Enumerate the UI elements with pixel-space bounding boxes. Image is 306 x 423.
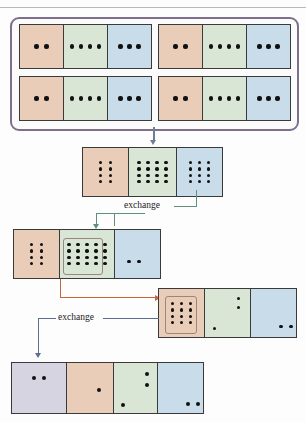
- dot-grid: [159, 289, 204, 337]
- connector-exchange1-down-stub: [114, 213, 115, 226]
- dot-grid: [177, 148, 222, 196]
- label-exchange-1: exchange: [124, 200, 160, 210]
- dot-grid: [184, 402, 202, 406]
- dot-grid: [247, 25, 290, 68]
- dot-grid: [203, 25, 246, 68]
- cell-blue-2: [114, 229, 161, 279]
- dot-grid: [14, 230, 59, 278]
- cell-pink-12: [158, 288, 205, 338]
- connector-exchange1-left: [115, 213, 145, 214]
- arrow-exchange2: [35, 353, 41, 358]
- cell-pink-2: [19, 76, 64, 121]
- dot-grid: [203, 77, 246, 120]
- connector-exchange2-left: [103, 318, 159, 319]
- dot-grid: [108, 25, 151, 68]
- dot-grid: [159, 77, 202, 120]
- cell-blue-2: [250, 288, 297, 338]
- dot-grid: [64, 77, 107, 120]
- connector-top-to-combined: [153, 127, 155, 141]
- cell-blue-12: [176, 147, 223, 197]
- dot-grid: [277, 325, 295, 328]
- dot-grid: [108, 77, 151, 120]
- dot: [97, 388, 101, 392]
- dot-grid: [20, 25, 63, 68]
- row-top-2-set-c: [19, 76, 152, 121]
- connector-exchange2-left2: [38, 318, 56, 319]
- diagram-canvas: exchange: [0, 0, 306, 423]
- cell-green-4: [63, 24, 108, 69]
- connector-carry-down: [60, 279, 61, 298]
- dot: [213, 327, 216, 330]
- row-top-2-set-d: [158, 76, 291, 121]
- dot-grid: [30, 376, 48, 380]
- cell-green-4: [202, 24, 247, 69]
- row-top-1-set-b: [158, 24, 291, 69]
- dot: [121, 403, 125, 407]
- dot-grid: [159, 25, 202, 68]
- cell-pink-2: [19, 24, 64, 69]
- connector-exchange1-right: [174, 206, 197, 207]
- dot: [145, 372, 149, 376]
- cell-green-3: [113, 362, 158, 414]
- cell-green-4: [202, 76, 247, 121]
- cell-pink-2: [158, 24, 203, 69]
- cell-pink-8: [13, 229, 60, 279]
- row-after-exchange-1: [13, 229, 161, 279]
- row-combined: [82, 147, 223, 197]
- dot-grid: [247, 77, 290, 120]
- connector-exchange2-down: [38, 318, 39, 355]
- dot-grid: [129, 148, 176, 196]
- label-exchange-2: exchange: [58, 312, 94, 322]
- dot: [145, 383, 149, 387]
- top-divider-rule: [0, 7, 306, 8]
- dot: [237, 297, 240, 300]
- cell-pink-1: [66, 362, 114, 414]
- cell-blue-3: [107, 24, 152, 69]
- cell-green-4: [63, 76, 108, 121]
- cell-pink-8: [82, 147, 129, 197]
- cell-blue-2: [157, 362, 204, 414]
- cell-green-16: [128, 147, 177, 197]
- connector-carry-right: [60, 297, 158, 298]
- cell-blue-3: [107, 76, 152, 121]
- cell-blue-3: [246, 76, 291, 121]
- cell-lavender-2: [11, 362, 67, 414]
- dot-grid: [64, 25, 107, 68]
- cell-green-3: [204, 288, 251, 338]
- arrow-top-to-combined: [150, 140, 156, 145]
- row-top-1-set-a: [19, 24, 152, 69]
- row-final: [11, 362, 204, 414]
- connector-exchange1-up: [196, 190, 197, 207]
- dot-grid: [20, 77, 63, 120]
- dot-grid: [83, 148, 128, 196]
- dot-grid: [125, 260, 143, 263]
- dot-grid: [60, 230, 114, 278]
- row-after-exchange-2: [158, 288, 297, 338]
- cell-green-20: [59, 229, 115, 279]
- dot: [237, 306, 240, 309]
- cell-pink-2: [158, 76, 203, 121]
- connector-exchange1-left2: [96, 213, 115, 214]
- cell-blue-3: [246, 24, 291, 69]
